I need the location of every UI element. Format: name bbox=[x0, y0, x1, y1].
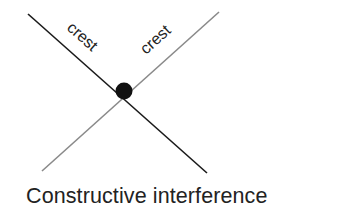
intersection-dot bbox=[116, 83, 133, 100]
wave-b-crest-label: crest bbox=[137, 21, 175, 57]
diagram-caption: Constructive interference bbox=[0, 184, 337, 209]
wave-a-crest-label: crest bbox=[64, 19, 102, 55]
